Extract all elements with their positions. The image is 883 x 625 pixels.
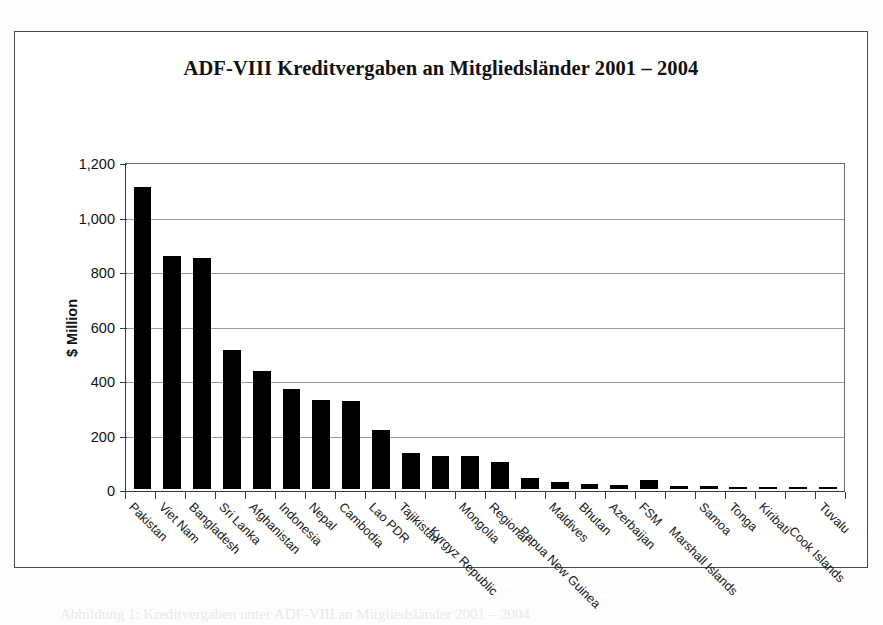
bar	[223, 350, 241, 490]
y-axis-tick-label: 800	[91, 265, 115, 281]
y-axis-tick-label: 1,200	[79, 156, 115, 172]
bar-slot	[336, 164, 366, 489]
bar-series	[128, 164, 843, 489]
x-axis-tick	[455, 492, 456, 499]
x-axis-tick	[635, 492, 636, 499]
bar	[402, 453, 420, 490]
y-axis-tick	[120, 328, 127, 329]
x-axis-tick	[125, 492, 126, 499]
x-axis-tick	[695, 492, 696, 499]
bar	[789, 487, 807, 489]
x-axis-tick	[665, 492, 666, 499]
x-axis-tick	[425, 492, 426, 499]
x-axis-category-label: Tuvalu	[816, 500, 852, 536]
bar	[759, 487, 777, 490]
bar	[461, 456, 479, 489]
bar	[491, 462, 509, 490]
bar	[700, 486, 718, 489]
x-axis-tick	[215, 492, 216, 499]
x-axis-tick	[515, 492, 516, 499]
x-axis-tick	[305, 492, 306, 499]
y-axis-tick-label: 200	[91, 429, 115, 445]
bar-slot	[634, 164, 664, 489]
y-axis-tick	[120, 437, 127, 438]
x-axis-category-label: Cook Islands	[786, 524, 847, 585]
y-axis-tick-label: 1,000	[79, 211, 115, 227]
bar	[342, 401, 360, 489]
y-axis-tick-label: 0	[107, 483, 115, 499]
figure-frame: ADF-VIII Kreditvergaben an Mitgliedsländ…	[14, 31, 868, 568]
x-axis-tick	[275, 492, 276, 499]
x-axis-tick	[575, 492, 576, 499]
x-axis-tick	[185, 492, 186, 499]
x-axis-tick	[545, 492, 546, 499]
bar	[312, 400, 330, 489]
x-axis-tick	[155, 492, 156, 499]
bar-slot	[396, 164, 426, 489]
bar-slot	[157, 164, 187, 489]
bar	[283, 389, 301, 489]
bar	[521, 478, 539, 489]
bar-slot	[515, 164, 545, 489]
bar-slot	[247, 164, 277, 489]
y-axis-tick	[120, 219, 127, 220]
bar	[819, 487, 837, 489]
bar	[372, 430, 390, 490]
bar-slot	[455, 164, 485, 489]
bar-slot	[128, 164, 158, 489]
plot-area-wrapper: 02004006008001,0001,200	[125, 163, 845, 492]
bar-slot	[277, 164, 307, 489]
y-axis-tick	[120, 164, 127, 165]
bar	[134, 187, 152, 489]
bar	[163, 256, 181, 489]
chart-title: ADF-VIII Kreditvergaben an Mitgliedsländ…	[15, 57, 867, 80]
x-axis-category-label: Papua New Guinea	[516, 524, 603, 611]
bar-slot	[545, 164, 575, 489]
bar-slot	[694, 164, 724, 489]
x-axis-tick	[395, 492, 396, 499]
x-axis-tick	[785, 492, 786, 499]
bar-slot	[724, 164, 754, 489]
x-axis-tick	[485, 492, 486, 499]
bar-slot	[783, 164, 813, 489]
y-axis-tick	[120, 273, 127, 274]
bar-slot	[366, 164, 396, 489]
x-axis-tick	[605, 492, 606, 499]
bar	[729, 487, 747, 490]
bar	[253, 371, 271, 489]
bar	[640, 480, 658, 489]
bar	[432, 456, 450, 489]
y-axis-tick	[120, 382, 127, 383]
bar	[551, 482, 569, 490]
bar	[581, 484, 599, 489]
bar-slot	[187, 164, 217, 489]
bar-slot	[426, 164, 456, 489]
bar-slot	[306, 164, 336, 489]
x-axis-tick	[815, 492, 816, 499]
bar-slot	[485, 164, 515, 489]
bar-slot	[813, 164, 843, 489]
figure-caption: Abbildung 1: Kreditvergaben unter ADF-VI…	[60, 606, 840, 625]
x-axis-tick	[755, 492, 756, 499]
bar	[610, 485, 628, 490]
x-axis-tick	[365, 492, 366, 499]
x-axis-tick	[335, 492, 336, 499]
plot-area: 02004006008001,0001,200	[125, 163, 845, 492]
bar-slot	[664, 164, 694, 489]
y-axis-title-label: $ Million	[64, 299, 80, 357]
x-axis-tick	[845, 492, 846, 499]
bar-slot	[217, 164, 247, 489]
bar	[193, 258, 211, 490]
y-axis-tick-label: 400	[91, 374, 115, 390]
scanned-page: ADF-VIII Kreditvergaben an Mitgliedsländ…	[0, 0, 883, 625]
x-axis-labels: PakistanViet NamBangladeshSri LankaAfgha…	[125, 500, 845, 600]
x-axis-tick	[245, 492, 246, 499]
x-axis-tick	[725, 492, 726, 499]
x-axis-ticks	[125, 492, 845, 499]
x-axis-category-label: Marshall Islands	[666, 524, 740, 598]
bar	[670, 486, 688, 490]
bar-slot	[753, 164, 783, 489]
y-axis-tick-label: 600	[91, 320, 115, 336]
bar-slot	[604, 164, 634, 489]
bar-slot	[575, 164, 605, 489]
